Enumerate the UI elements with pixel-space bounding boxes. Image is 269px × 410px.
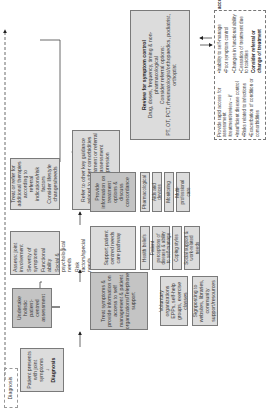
assess-item: Functional ability [41,234,53,272]
signposting-text: Signposting to websites, libraries, comm… [193,279,217,323]
rapid-access-box: Provide rapid access for assessment /tre… [214,10,266,140]
info-item-aids: Aids and devices [152,172,162,212]
rapid-access-bullet: •Cessation of treatment due to toxicitie… [239,13,250,73]
provide-information-box: Provide information on treatment options… [90,172,136,212]
diagnosis-zone: Diagnosis [4,368,18,408]
signposting-box: Signposting to websites, libraries, comm… [192,276,218,326]
provide-information-text: Provide information on treatment options… [95,175,131,209]
treat-symptoms-box: Treat symptoms & provide information on … [90,272,148,330]
support-item-perceptions: Patient perceptions of disease & ability… [152,226,170,270]
rapid-access-bullet: •Changes in functional ability [232,13,237,73]
treat-refer-box: Treat or refer for additional therapies … [10,158,60,210]
support-item-health-beliefs: Health beliefs [140,226,150,270]
assess-item: Assess: joint involvement [13,234,25,272]
patient-presents-text: Patient presents with joint symptoms [27,351,45,389]
assess-item: Social & psychological needs [55,234,73,272]
info-item-monitoring: Monitoring [164,172,174,212]
assess-item: Severity of symptoms [27,234,39,272]
voluntary-orgs-text: Voluntary organizations EPPs, self-help … [159,279,189,323]
rapid-access-intro: Provide rapid access for assessment /tre… [217,77,233,137]
info-item-multiprofessional: Multi-professional care [176,172,190,212]
flowchart-canvas: Diagnosis Patient presents with joint sy… [0,0,269,410]
info-item-label: Aids and devices [152,175,163,209]
info-item-label: Monitoring [166,181,171,202]
info-item-label: Pharmacological [142,175,147,209]
lifestyle-text: Consider lifestyle changes/needs [47,161,59,207]
rapid-access-bullet: •Inability to self-manage [217,13,222,73]
support-item-social: Social support & work-related needs [184,226,200,270]
rapid-access-bullet: •Poor symptom control [224,13,229,73]
rapid-access-bullet: •Exacerbation of condition or comorbidit… [249,77,260,137]
diagnosis-bold: Diagnosis [51,358,57,383]
rapid-access-bullet: •Risks related to infections [242,77,247,137]
holistic-assessment-box: Undertake holistic patient-centred asses… [12,288,52,328]
assess-box: Assess: joint involvement Severity of sy… [10,231,60,275]
support-pathway-text: Support patient centred needs care pathw… [104,229,122,267]
support-item-label: Coping styles [174,234,179,262]
info-item-pharmacological: Pharmacological [140,172,150,212]
holistic-assessment-text: Undertake holistic patient-centred asses… [17,291,47,325]
support-item-label: Health beliefs [142,234,147,262]
review-line: PT, OT, PCT, rheumatologist/orthopaedics… [166,13,178,137]
support-item-label: Social support & work-related needs [184,229,200,267]
info-item-label: Multi-professional care [175,175,191,209]
review-symptom-control-box: Review for symptom control Drug, doses, … [130,10,190,140]
rapid-access-bullet: •Insufficient disease control [235,77,240,137]
support-item-label: Patient perceptions of disease & ability… [150,229,171,267]
support-item-coping: Coping styles [172,226,182,270]
voluntary-orgs-box: Voluntary organizations EPPs, self-help … [160,276,188,326]
support-pathway-box: Support patient centred needs care pathw… [90,226,136,270]
diagnosis-label: Diagnosis [8,377,14,400]
patient-presents-box: Patient presents with joint symptoms ↓ D… [20,348,64,392]
treat-refer-text: Treat or refer for additional therapies … [11,161,47,207]
treat-symptoms-text: Treat symptoms & provide information on … [101,273,137,329]
